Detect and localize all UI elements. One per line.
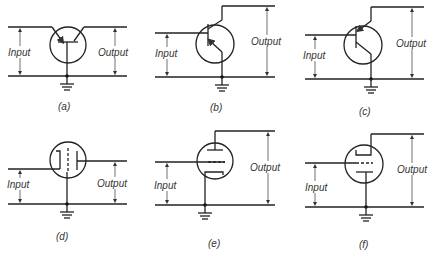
input-label: Input [305,182,328,193]
input-label: Input [7,179,30,190]
caption: (f) [359,239,368,250]
panel-f: Input Output (f) [305,134,431,250]
panel-e: Input Output (e) [154,131,284,249]
ground-icon [364,79,378,93]
output-label: Output [250,162,281,173]
input-label: Input [155,48,178,59]
transistor-symbol [196,25,234,63]
amplifier-configurations-diagram: Input Output (a) Input Output (b) [0,0,435,254]
output-label: Output [397,164,428,175]
panel-a: Input Output (a) [8,27,129,112]
input-label: Input [154,180,177,191]
panel-c: Input Output (c) [303,7,428,117]
panel-b: Input Output (b) [155,6,283,113]
caption: (c) [359,106,371,117]
panel-d: Input Output (d) [7,142,129,242]
caption: (b) [210,102,222,113]
ground-icon [60,76,74,90]
ground-icon [359,207,373,221]
ground-icon [60,204,74,218]
vacuum-tube-symbol [345,145,383,183]
output-label: Output [251,36,282,47]
input-label: Input [8,47,31,58]
output-label: Output [396,38,427,49]
caption: (d) [56,231,68,242]
output-label: Output [98,47,129,58]
input-label: Input [303,50,326,61]
ground-icon [198,205,212,219]
output-label: Output [97,178,128,189]
caption: (e) [208,238,220,249]
transistor-symbol [344,26,382,64]
ground-icon [215,77,229,91]
caption: (a) [58,101,70,112]
